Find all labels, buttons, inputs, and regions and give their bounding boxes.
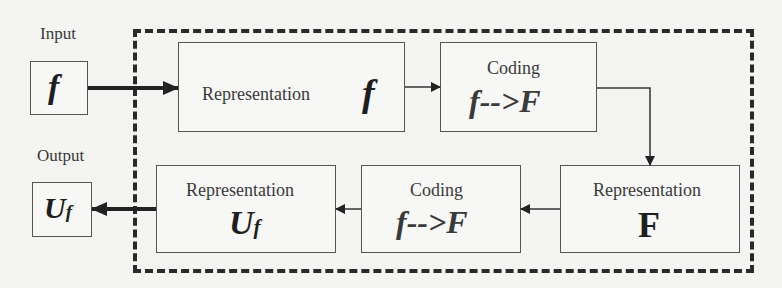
arrow-coding-to-representation-F [597,88,650,165]
connector-arrows [0,0,782,288]
